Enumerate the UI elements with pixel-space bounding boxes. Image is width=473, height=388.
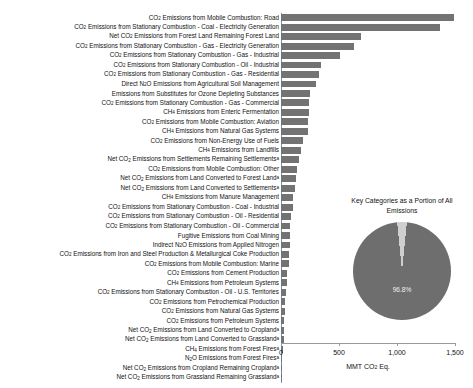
bar-fill bbox=[281, 14, 454, 21]
bar-row: CO2 Emissions from Stationary Combustion… bbox=[0, 70, 455, 79]
bar-fill bbox=[281, 327, 284, 334]
bar-fill bbox=[281, 317, 284, 324]
bar-fill bbox=[281, 270, 287, 277]
bar-category-label: N2O Emissions from Forest Firesa bbox=[0, 354, 281, 363]
pie-chart: 96.8% bbox=[353, 222, 451, 320]
bar-fill bbox=[281, 232, 290, 239]
bar-category-label: CO2 Emissions from Stationary Combustion… bbox=[0, 70, 281, 78]
bar-track bbox=[281, 344, 455, 353]
x-axis-tick bbox=[455, 343, 456, 346]
bar-row: CO2 Emissions from Mobile Combustion: Av… bbox=[0, 117, 455, 126]
bar-fill bbox=[281, 223, 290, 230]
bar-fill bbox=[281, 242, 290, 249]
bar-track bbox=[281, 79, 455, 88]
bar-category-label: CO2 Emissions from Cement Production bbox=[0, 269, 281, 277]
bar-fill bbox=[281, 194, 293, 201]
bar-row: N2O Emissions from Forest Firesa bbox=[0, 354, 455, 363]
bar-fill bbox=[281, 374, 282, 381]
bar-fill bbox=[281, 166, 297, 173]
bar-track bbox=[281, 117, 455, 126]
bar-category-label: CO2 Emissions from Stationary Combustion… bbox=[0, 23, 281, 31]
bar-track bbox=[281, 13, 455, 22]
bar-track bbox=[281, 146, 455, 155]
key-categories-pie-panel: Key Categories as a Portion of All Emiss… bbox=[332, 196, 472, 331]
bar-row: Net CO2 Emissions from Land Converted to… bbox=[0, 174, 455, 183]
bar-category-label: CO2 Emissions from Mobile Combustion: Ma… bbox=[0, 260, 281, 268]
bar-row: CO2 Emissions from Mobile Combustion: Ro… bbox=[0, 13, 455, 22]
bar-row: Emissions from Substitutes for Ozone Dep… bbox=[0, 89, 455, 98]
bar-category-label: Net CO2 Emissions from Land Converted to… bbox=[0, 184, 281, 193]
bar-category-label: CO2 Emissions from Petrochemical Product… bbox=[0, 298, 281, 306]
x-axis-tick-label: 500 bbox=[333, 348, 345, 357]
bar-category-label: Net CO2 Emissions from Settlements Remai… bbox=[0, 155, 281, 164]
bar-fill bbox=[281, 62, 321, 69]
bar-track bbox=[281, 89, 455, 98]
bar-fill bbox=[281, 260, 289, 267]
bar-category-label: CH4 Emissions from Petroleum Systems bbox=[0, 279, 281, 287]
bar-fill bbox=[281, 52, 340, 59]
bar-fill bbox=[281, 99, 309, 106]
bar-category-label: CO2 Emissions from Stationary Combustion… bbox=[0, 222, 281, 230]
bar-category-label: CO2 Emissions from Stationary Combustion… bbox=[0, 212, 281, 220]
bar-fill bbox=[281, 185, 295, 192]
bar-row: CH4 Emissions from Enteric Fermentation bbox=[0, 108, 455, 117]
pie-slices bbox=[353, 222, 451, 320]
bar-track bbox=[281, 70, 455, 79]
bar-category-label: Net CO2 Emissions from Grassland Remaini… bbox=[0, 373, 281, 382]
bar-category-label: Net CO2 Emissions from Cropland Remainin… bbox=[0, 364, 281, 373]
bar-fill bbox=[281, 251, 289, 258]
pie-chart-title: Key Categories as a Portion of All Emiss… bbox=[335, 196, 469, 215]
x-axis-tick bbox=[281, 343, 282, 346]
bar-category-label: CO2 Emissions from Stationary Combustion… bbox=[0, 61, 281, 69]
bar-fill bbox=[281, 128, 308, 135]
bar-track bbox=[281, 51, 455, 60]
bar-category-label: CO2 Emissions from Petroleum Systems bbox=[0, 317, 281, 325]
bar-row: Net CO2 Emissions from Land Converted to… bbox=[0, 183, 455, 192]
bar-track bbox=[281, 174, 455, 183]
bar-category-label: CO2 Emissions from Stationary Combustion… bbox=[0, 203, 281, 211]
bar-fill bbox=[281, 298, 285, 305]
bar-category-label: CO2 Emissions from Stationary Combustion… bbox=[0, 42, 281, 50]
pie-slice-value-label: 96.8% bbox=[353, 286, 451, 293]
bar-row: Net CO2 Emissions from Grassland Remaini… bbox=[0, 373, 455, 382]
bar-track bbox=[281, 98, 455, 107]
bar-category-label: CO2 Emissions from Mobile Combustion: Ro… bbox=[0, 14, 281, 22]
bar-category-label: Net CO2 Emissions from Land Converted to… bbox=[0, 326, 281, 335]
bar-track bbox=[281, 108, 455, 117]
bar-category-label: CO2 Emissions from Non-Energy Use of Fue… bbox=[0, 137, 281, 145]
bar-row: CH4 Emissions from Landfills bbox=[0, 146, 455, 155]
bar-category-label: Net CO2 Emissions from Forest Land Remai… bbox=[0, 32, 281, 40]
bar-row: Direct N2O Emissions from Agricultural S… bbox=[0, 79, 455, 88]
bar-fill bbox=[281, 137, 303, 144]
bar-fill bbox=[281, 279, 287, 286]
bar-row: Net CO2 Emissions from Forest Land Remai… bbox=[0, 32, 455, 41]
bar-category-label: Net CO2 Emissions from Land Converted to… bbox=[0, 174, 281, 183]
bar-category-label: CO2 Emissions from Natural Gas Systems bbox=[0, 307, 281, 315]
bar-track bbox=[281, 354, 455, 363]
x-axis-tick-label: 0 bbox=[279, 348, 283, 357]
bar-category-label: Direct N2O Emissions from Agricultural S… bbox=[0, 80, 281, 88]
bar-row: CO2 Emissions from Stationary Combustion… bbox=[0, 22, 455, 31]
bar-track bbox=[281, 136, 455, 145]
bar-row: CO2 Emissions from Stationary Combustion… bbox=[0, 98, 455, 107]
bar-fill bbox=[281, 204, 293, 211]
bar-category-label: CO2 Emissions from Mobile Combustion: Av… bbox=[0, 118, 281, 126]
bar-fill bbox=[281, 147, 301, 154]
bar-category-label: Emissions from Substitutes for Ozone Dep… bbox=[0, 90, 281, 97]
bar-row: Net CO2 Emissions from Settlements Remai… bbox=[0, 155, 455, 164]
bar-row: CH4 Emissions from Natural Gas Systems bbox=[0, 127, 455, 136]
bar-fill bbox=[281, 81, 316, 88]
bar-track bbox=[281, 373, 455, 382]
bar-track bbox=[281, 60, 455, 69]
bar-track bbox=[281, 183, 455, 192]
bar-fill bbox=[281, 33, 361, 40]
x-axis-tick bbox=[397, 343, 398, 346]
bar-row: CO2 Emissions from Stationary Combustion… bbox=[0, 60, 455, 69]
bar-track bbox=[281, 155, 455, 164]
bar-category-label: Net CO2 Emissions from Land Converted to… bbox=[0, 335, 281, 344]
bar-fill bbox=[281, 156, 299, 163]
bar-fill bbox=[281, 109, 309, 116]
bar-row: CO2 Emissions from Non-Energy Use of Fue… bbox=[0, 136, 455, 145]
bar-category-label: CH4 Emissions from Forest Firesa bbox=[0, 345, 281, 354]
bar-fill bbox=[281, 308, 285, 315]
